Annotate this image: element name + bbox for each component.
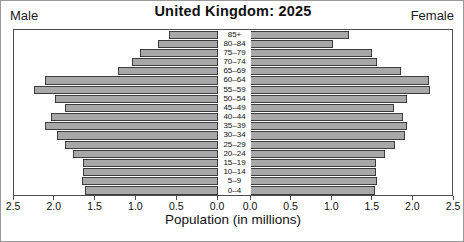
female-bar-75-79[interactable] [249, 49, 372, 57]
bar-row [14, 140, 218, 149]
male-x-axis: 2.52.01.51.00.50.0 [13, 196, 217, 212]
x-axis-title: Population (in millions) [1, 212, 464, 227]
bar-row [14, 39, 218, 48]
male-bar-50-54[interactable] [55, 95, 218, 103]
bar-row [14, 58, 218, 67]
female-bar-60-64[interactable] [249, 76, 429, 84]
bar-row [249, 113, 452, 122]
age-group-label: 50–54 [218, 94, 251, 103]
bar-row [249, 186, 452, 195]
female-bar-10-14[interactable] [249, 168, 376, 176]
age-group-label: 5–9 [218, 177, 251, 186]
male-bar-80-84[interactable] [158, 40, 218, 48]
male-bar-40-44[interactable] [51, 113, 218, 121]
male-bar-5-9[interactable] [82, 177, 218, 185]
bar-row [249, 48, 452, 57]
male-bar-45-49[interactable] [65, 104, 218, 112]
male-bar-25-29[interactable] [65, 141, 218, 149]
female-bar-30-34[interactable] [249, 131, 405, 139]
age-group-labels: 85+80–8475–7970–7465–6960–6455–5950–5445… [218, 30, 251, 195]
bar-row [14, 122, 218, 131]
female-bar-20-24[interactable] [249, 150, 385, 158]
bar-row [14, 85, 218, 94]
female-bar-80-84[interactable] [249, 40, 333, 48]
bar-row [14, 30, 218, 39]
bar-row [14, 158, 218, 167]
female-axis-tick-label: 1.5 [364, 200, 379, 212]
age-group-label: 30–34 [218, 131, 251, 140]
female-bar-40-44[interactable] [249, 113, 403, 121]
bar-row [249, 103, 452, 112]
bar-row [249, 58, 452, 67]
age-group-label: 0–4 [218, 186, 251, 195]
male-bar-35-39[interactable] [45, 122, 218, 130]
bar-row [14, 113, 218, 122]
female-axis-tick-label: 1.0 [324, 200, 339, 212]
female-bar-70-74[interactable] [249, 58, 377, 66]
female-bar-0-4[interactable] [249, 186, 375, 194]
male-bar-75-79[interactable] [140, 49, 218, 57]
male-axis-tick-label: 0.0 [210, 200, 225, 212]
male-axis-tick-label: 2.0 [46, 200, 61, 212]
age-group-label: 55–59 [218, 85, 251, 94]
female-axis-tick-label: 0.0 [243, 200, 258, 212]
female-axis-tick-label: 2.0 [405, 200, 420, 212]
female-bar-55-59[interactable] [249, 86, 430, 94]
bar-row [249, 30, 452, 39]
female-side-label: Female [411, 8, 454, 23]
bar-row [249, 94, 452, 103]
bar-row [249, 140, 452, 149]
age-group-label: 85+ [218, 30, 251, 39]
male-axis-tick-label: 1.0 [128, 200, 143, 212]
male-bar-30-34[interactable] [57, 131, 218, 139]
bar-row [14, 103, 218, 112]
female-bar-25-29[interactable] [249, 141, 395, 149]
bar-row [14, 48, 218, 57]
male-bar-0-4[interactable] [85, 186, 218, 194]
age-group-label: 25–29 [218, 140, 251, 149]
male-axis-tick-label: 1.5 [87, 200, 102, 212]
female-bar-5-9[interactable] [249, 177, 377, 185]
bar-row [14, 177, 218, 186]
female-axis-tick-label: 2.5 [446, 200, 461, 212]
bar-row [249, 168, 452, 177]
male-bars-panel [14, 30, 218, 195]
age-group-label: 60–64 [218, 76, 251, 85]
bar-row [249, 39, 452, 48]
male-bar-60-64[interactable] [45, 76, 218, 84]
bar-row [249, 85, 452, 94]
male-bar-70-74[interactable] [132, 58, 218, 66]
age-group-label: 80–84 [218, 39, 251, 48]
page-title: United Kingdom: 2025 [1, 3, 464, 19]
bar-row [249, 131, 452, 140]
bar-row [249, 177, 452, 186]
population-pyramid-figure: United Kingdom: 2025 Male Female 85+80–8… [0, 0, 464, 242]
male-bar-10-14[interactable] [83, 168, 218, 176]
male-axis-tick-label: 2.5 [6, 200, 21, 212]
male-bar-15-19[interactable] [83, 159, 218, 167]
male-side-label: Male [10, 8, 38, 23]
female-bar-50-54[interactable] [249, 95, 407, 103]
male-bar-85plus[interactable] [169, 31, 218, 39]
female-bars-panel [249, 30, 452, 195]
bar-row [14, 186, 218, 195]
male-bar-55-59[interactable] [34, 86, 218, 94]
male-bar-65-69[interactable] [118, 67, 218, 75]
bar-row [249, 149, 452, 158]
bar-row [249, 122, 452, 131]
female-bar-85plus[interactable] [249, 31, 349, 39]
bar-row [14, 67, 218, 76]
bar-row [14, 76, 218, 85]
bar-row [249, 67, 452, 76]
female-bar-45-49[interactable] [249, 104, 394, 112]
bar-row [249, 76, 452, 85]
female-bar-65-69[interactable] [249, 67, 401, 75]
bar-row [14, 131, 218, 140]
bar-row [249, 158, 452, 167]
bar-row [14, 149, 218, 158]
female-bar-15-19[interactable] [249, 159, 376, 167]
male-bar-20-24[interactable] [73, 150, 218, 158]
female-bar-35-39[interactable] [249, 122, 407, 130]
bar-row [14, 168, 218, 177]
female-axis-tick-label: 0.5 [283, 200, 298, 212]
